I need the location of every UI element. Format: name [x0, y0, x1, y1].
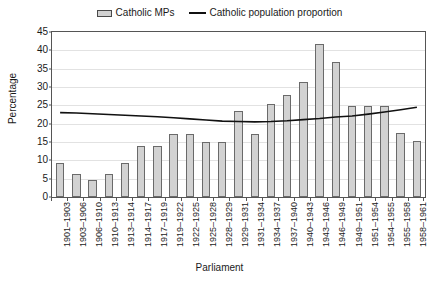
y-tick-label: 30 [37, 82, 48, 92]
x-tick-label: 1946–1949 [338, 202, 347, 247]
x-axis-tick-labels: 1901–19031903–19061906–19101910–19131913… [51, 202, 424, 258]
x-tick-mark [343, 197, 344, 201]
x-tick-mark [67, 197, 68, 201]
legend-entry-catholic-mps: Catholic MPs [97, 8, 175, 18]
x-tick-label: 1925–1928 [209, 202, 218, 247]
chart-container: Catholic MPs Catholic population proport… [0, 0, 439, 286]
x-tick-mark [375, 197, 376, 201]
y-axis-title: Percentage [6, 0, 20, 196]
x-tick-label: 1955–1958 [403, 202, 412, 247]
x-tick-label: 1922–1925 [192, 202, 201, 247]
x-tick-mark [246, 197, 247, 201]
x-tick-mark [165, 197, 166, 201]
catholic-population-proportion-line [60, 107, 417, 122]
x-tick-mark [408, 197, 409, 201]
x-axis-title-text: Parliament [196, 262, 244, 273]
y-tick-label: 10 [37, 155, 48, 165]
y-tick-label: 15 [37, 137, 48, 147]
x-tick-mark [423, 197, 424, 201]
line-series [52, 32, 425, 197]
y-tick-label: 45 [37, 27, 48, 37]
legend-label-catholic-population-proportion: Catholic population proportion [210, 8, 343, 18]
x-tick-label: 1931–1934 [257, 202, 266, 247]
x-tick-mark [213, 197, 214, 201]
x-tick-label: 1928–1929 [225, 202, 234, 247]
x-tick-label: 1943–1946 [322, 202, 331, 247]
y-tick-label: 0 [42, 192, 48, 202]
x-tick-mark [116, 197, 117, 201]
x-tick-mark [229, 197, 230, 201]
plot-area: 051015202530354045 [51, 31, 426, 198]
y-tick-label: 35 [37, 64, 48, 74]
x-axis-ticks [51, 197, 424, 201]
x-tick-mark [327, 197, 328, 201]
y-tick-label: 25 [37, 100, 48, 110]
x-tick-mark [359, 197, 360, 201]
x-tick-label: 1910–1913 [111, 202, 120, 247]
line-swatch-icon [189, 12, 206, 14]
x-tick-label: 1940–1943 [306, 202, 315, 247]
x-tick-mark [294, 197, 295, 201]
y-tick-label: 40 [37, 45, 48, 55]
x-tick-label: 1929–1931 [241, 202, 250, 247]
x-tick-mark [100, 197, 101, 201]
x-tick-mark [181, 197, 182, 201]
x-tick-mark [132, 197, 133, 201]
x-tick-mark [392, 197, 393, 201]
x-tick-label: 1934–1937 [273, 202, 282, 247]
x-tick-mark [262, 197, 263, 201]
x-axis-title: Parliament [0, 262, 439, 273]
y-tick-label: 5 [42, 174, 48, 184]
x-tick-label: 1914–1917 [144, 202, 153, 247]
x-tick-mark [83, 197, 84, 201]
x-tick-label: 1937–1940 [290, 202, 299, 247]
x-tick-label: 1901–1903 [63, 202, 72, 247]
x-tick-label: 1903–1906 [79, 202, 88, 247]
x-tick-label: 1906–1910 [95, 202, 104, 247]
x-tick-label: 1951–1954 [371, 202, 380, 247]
x-tick-mark [278, 197, 279, 201]
y-tick-label: 20 [37, 119, 48, 129]
bar-swatch-icon [97, 10, 112, 17]
x-tick-mark [310, 197, 311, 201]
x-tick-label: 1913–1914 [127, 202, 136, 247]
x-tick-label: 1949–1951 [355, 202, 364, 247]
legend-label-catholic-mps: Catholic MPs [116, 8, 175, 18]
x-tick-mark [51, 197, 52, 201]
x-tick-label: 1954–1955 [387, 202, 396, 247]
x-tick-label: 1958–1961 [419, 202, 428, 247]
chart-legend: Catholic MPs Catholic population proport… [0, 5, 439, 21]
y-axis-title-text: Percentage [8, 72, 19, 123]
legend-entry-catholic-population-proportion: Catholic population proportion [189, 8, 343, 18]
x-tick-mark [197, 197, 198, 201]
x-tick-mark [148, 197, 149, 201]
x-tick-label: 1919–1922 [176, 202, 185, 247]
x-tick-label: 1917–1919 [160, 202, 169, 247]
